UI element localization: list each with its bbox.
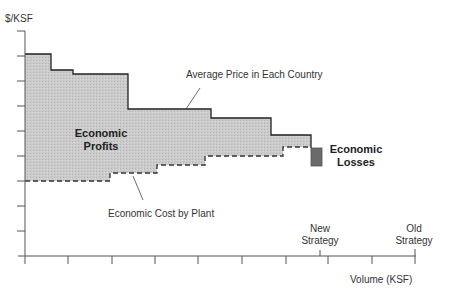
losses-label-line2: Losses xyxy=(337,156,375,168)
cost-label: Economic Cost by Plant xyxy=(108,208,214,219)
profits-label-line1: Economic xyxy=(75,127,128,139)
cost-leader xyxy=(133,176,143,200)
y-axis xyxy=(17,31,25,256)
economic-profit-chart: $/KSF Volume (KSF) Average Price in Each… xyxy=(0,0,450,295)
y-axis-label: $/KSF xyxy=(5,13,33,24)
avg-price-leader xyxy=(186,88,200,109)
x-axis-label: Volume (KSF) xyxy=(350,274,412,285)
x-axis xyxy=(18,249,416,264)
economic-losses-region xyxy=(311,148,322,166)
new-strategy-label-line2: Strategy xyxy=(301,235,338,246)
losses-label-line1: Economic xyxy=(330,143,383,155)
avg-price-label: Average Price in Each Country xyxy=(186,69,323,80)
profits-label-line2: Profits xyxy=(84,140,119,152)
new-strategy-label-line1: New xyxy=(310,223,331,234)
old-strategy-label-line1: Old xyxy=(406,223,422,234)
old-strategy-label-line2: Strategy xyxy=(395,235,432,246)
